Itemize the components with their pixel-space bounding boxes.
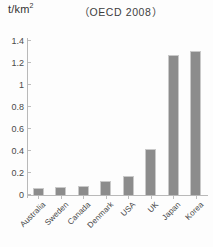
chart-title: （OECD 2008） bbox=[0, 4, 213, 19]
bar bbox=[168, 55, 179, 195]
x-axis-tick-label: Japan bbox=[160, 200, 182, 222]
x-axis-tick-mark bbox=[128, 196, 129, 199]
bar bbox=[78, 186, 89, 195]
bar-slot bbox=[117, 41, 140, 195]
x-axis-tick-mark bbox=[38, 196, 39, 199]
bar bbox=[33, 188, 44, 195]
bar-slot bbox=[95, 41, 118, 195]
x-axis-tick-label: Korea bbox=[183, 200, 205, 222]
y-axis-tick-label: 0.2 bbox=[11, 168, 24, 178]
x-axis-tick-mark bbox=[106, 196, 107, 199]
x-axis-tick-label: USA bbox=[119, 200, 137, 218]
bar-slot bbox=[140, 41, 163, 195]
bar-slot bbox=[27, 41, 50, 195]
y-axis-tick-label: 0.4 bbox=[11, 146, 24, 156]
bar-slot bbox=[72, 41, 95, 195]
bar-chart: t/km2 （OECD 2008） 00.20.40.60.811.21.4 A… bbox=[0, 0, 213, 247]
y-axis-tick-label: 1 bbox=[19, 80, 24, 90]
x-axis-tick-mark bbox=[151, 196, 152, 199]
bar bbox=[123, 176, 134, 195]
bar-slot bbox=[162, 41, 185, 195]
y-axis-tick-label: 0.6 bbox=[11, 124, 24, 134]
x-axis-line bbox=[27, 195, 208, 196]
x-axis-tick-label: Sweden bbox=[43, 200, 70, 227]
y-axis-tick-label: 1.4 bbox=[11, 36, 24, 46]
x-axis-tick-mark bbox=[83, 196, 84, 199]
bar bbox=[100, 181, 111, 195]
x-axis-tick-mark bbox=[196, 196, 197, 199]
y-axis-tick-label: 0.8 bbox=[11, 102, 24, 112]
plot-area bbox=[27, 41, 207, 195]
x-axis-tick-mark bbox=[173, 196, 174, 199]
bar bbox=[55, 187, 66, 195]
y-axis-tick-label: 0 bbox=[19, 190, 24, 200]
bar bbox=[145, 149, 156, 195]
bar-slot bbox=[185, 41, 208, 195]
x-axis-tick-label: Australia bbox=[19, 200, 48, 229]
x-axis-tick-label: UK bbox=[146, 200, 160, 214]
x-axis-tick-mark bbox=[61, 196, 62, 199]
bar bbox=[190, 51, 201, 195]
y-axis-tick-label: 1.2 bbox=[11, 58, 24, 68]
bar-slot bbox=[50, 41, 73, 195]
